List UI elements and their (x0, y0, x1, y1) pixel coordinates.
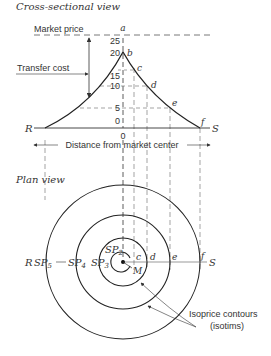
plan-label-R: R (24, 257, 33, 268)
point-c-label: c (137, 63, 142, 73)
point-d-label: d (151, 80, 157, 90)
market-price-label: Market price (34, 24, 84, 34)
label-R: R (24, 123, 33, 134)
distance-axis-label: Distance from market center (65, 140, 178, 150)
point-f-label: f (200, 117, 206, 127)
label-M: M (132, 266, 143, 276)
tick-15: 15 (110, 71, 120, 81)
point-e-label: e (172, 98, 177, 108)
tick-0: 0 (115, 116, 120, 126)
contour-label-line2: (isotims) (210, 321, 244, 331)
contour-label-line1: Isoprice contours (189, 309, 258, 319)
plan-label-e: e (172, 252, 177, 262)
point-b-label: b (127, 48, 133, 58)
tick-25: 25 (110, 36, 120, 46)
plan-view-title: Plan view (15, 174, 65, 185)
sp5-label: SP5 (34, 257, 53, 270)
label-S: S (212, 123, 219, 134)
plan-label-c: c (136, 252, 141, 262)
plan-label-d: d (150, 252, 156, 262)
contour-arrow-inner (141, 283, 196, 327)
isotim-diagram: Cross-sectional view Market price a Tran… (0, 0, 271, 356)
tick-20: 20 (110, 48, 120, 58)
plan-label-f: f (200, 251, 206, 261)
plan-label-S: S (209, 257, 216, 268)
market-pointer (123, 262, 132, 268)
cross-section-title: Cross-sectional view (16, 1, 121, 12)
point-a-label: a (120, 23, 125, 33)
transfer-cost-label: Transfer cost (17, 63, 70, 73)
sp4-label: SP4 (68, 257, 86, 270)
